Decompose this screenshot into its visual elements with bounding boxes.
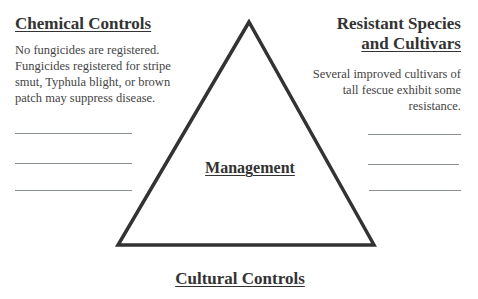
text-line: Fungicides registered for stripe	[15, 58, 215, 74]
text-line: No fungicides are registered.	[15, 42, 215, 58]
chemical-controls-text: No fungicides are registered. Fungicides…	[15, 42, 215, 106]
heading-line: Resistant Species	[337, 14, 461, 34]
resistant-blank-line-3	[369, 190, 461, 191]
text-line: Several improved cultivars of	[261, 66, 461, 82]
chemical-blank-line-1	[15, 133, 132, 134]
resistant-species-heading: Resistant Species and Cultivars	[337, 14, 461, 54]
heading-line: and Cultivars	[361, 34, 461, 53]
text-line: tall fescue exhibit some	[261, 82, 461, 98]
text-line: resistance.	[261, 98, 461, 114]
resistant-blank-line-1	[368, 134, 461, 135]
resistant-blank-line-2	[368, 164, 459, 165]
chemical-blank-line-3	[15, 190, 132, 191]
text-line: smut, Typhula blight, or brown	[15, 74, 215, 90]
resistant-species-text: Several improved cultivars of tall fescu…	[261, 66, 461, 114]
text-line: patch may suppress disease.	[15, 90, 215, 106]
chemical-blank-line-2	[15, 163, 132, 164]
cultural-controls-heading: Cultural Controls	[160, 269, 320, 289]
management-label: Management	[200, 158, 300, 178]
chemical-controls-heading: Chemical Controls	[15, 14, 151, 34]
